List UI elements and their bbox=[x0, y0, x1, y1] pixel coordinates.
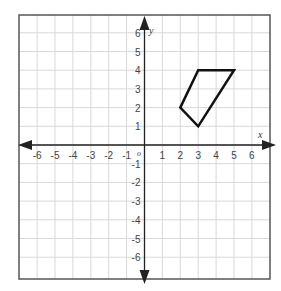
x-axis-right-arrow-icon bbox=[262, 140, 276, 150]
x-tick-label: 2 bbox=[178, 150, 184, 161]
y-tick-label: 5 bbox=[135, 47, 141, 58]
y-tick-label: 2 bbox=[135, 103, 141, 114]
y-tick-label: -3 bbox=[132, 196, 141, 207]
y-axis-up-arrow-icon bbox=[140, 16, 150, 30]
origin-label: o bbox=[137, 149, 141, 158]
quadrilateral bbox=[180, 70, 234, 126]
x-tick-label: 3 bbox=[195, 150, 201, 161]
x-tick-label: -4 bbox=[68, 150, 77, 161]
y-tick-label: -2 bbox=[132, 177, 141, 188]
y-axis-down-arrow-icon bbox=[140, 270, 150, 284]
y-tick-label: -5 bbox=[132, 234, 141, 245]
y-axis-label: y bbox=[148, 25, 154, 36]
x-tick-label: -3 bbox=[86, 150, 95, 161]
y-tick-label: 4 bbox=[135, 65, 141, 76]
coordinate-plane: -6-5-4-3-2-1123456654321-1-2-3-4-5-6 x y… bbox=[0, 0, 281, 291]
y-tick-label: 6 bbox=[135, 28, 141, 39]
x-tick-label: -5 bbox=[51, 150, 60, 161]
y-tick-label: 3 bbox=[135, 84, 141, 95]
x-tick-label: 1 bbox=[160, 150, 166, 161]
y-tick-label: 1 bbox=[135, 121, 141, 132]
y-tick-label: -6 bbox=[132, 252, 141, 263]
x-tick-label: -1 bbox=[122, 150, 131, 161]
y-tick-label: -4 bbox=[132, 215, 141, 226]
x-tick-label: 6 bbox=[249, 150, 255, 161]
x-tick-label: -6 bbox=[33, 150, 42, 161]
x-tick-label: -2 bbox=[104, 150, 113, 161]
x-tick-label: 5 bbox=[231, 150, 237, 161]
x-axis-left-arrow-icon bbox=[18, 140, 32, 150]
y-tick-label: -1 bbox=[132, 159, 141, 170]
shapes bbox=[180, 70, 234, 126]
x-tick-label: 4 bbox=[213, 150, 219, 161]
x-axis-label: x bbox=[257, 129, 263, 140]
